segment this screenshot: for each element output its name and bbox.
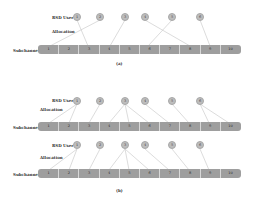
subchannel-cell: 7 — [160, 122, 180, 131]
subchannel-cell: 2 — [59, 122, 79, 131]
user-node: 4 — [141, 141, 149, 149]
user-node: 6 — [196, 13, 204, 21]
subchannel-bar: 1 2 3 4 5 6 7 8 9 10 — [38, 122, 241, 131]
subchannel-cell: 2 — [59, 45, 79, 54]
allocation-lines-a — [0, 0, 253, 70]
panel-b-bottom: RSD User Allocation Subchannel 1 2 3 4 5… — [0, 138, 253, 202]
subchannel-label: Subchannel — [13, 48, 39, 53]
user-node: 4 — [141, 13, 149, 21]
user-node: 6 — [196, 97, 204, 105]
user-node: 3 — [121, 97, 129, 105]
caption-a: (a) — [116, 61, 122, 66]
user-node: 3 — [121, 141, 129, 149]
subchannel-bar: 1 2 3 4 5 6 7 8 9 10 — [38, 45, 241, 54]
user-node: 3 — [121, 13, 129, 21]
subchannel-cell: 9 — [201, 122, 221, 131]
user-node: 2 — [96, 141, 104, 149]
user-node: 1 — [73, 97, 81, 105]
subchannel-cell: 10 — [221, 122, 240, 131]
subchannel-cell: 2 — [59, 169, 79, 178]
rsd-user-label: RSD User — [52, 15, 73, 20]
subchannel-label: Subchannel — [13, 125, 39, 130]
subchannel-cell: 1 — [39, 122, 59, 131]
rsd-user-label: RSD User — [52, 98, 73, 103]
user-node: 1 — [73, 141, 81, 149]
subchannel-cell: 6 — [140, 122, 160, 131]
user-node: 6 — [196, 141, 204, 149]
subchannel-cell: 4 — [100, 45, 120, 54]
user-node: 5 — [168, 97, 176, 105]
subchannel-cell: 5 — [120, 45, 140, 54]
subchannel-bar: 1 2 3 4 5 6 7 8 9 10 — [38, 169, 241, 178]
subchannel-label: Subchannel — [13, 172, 39, 177]
subchannel-cell: 9 — [201, 45, 221, 54]
subchannel-cell: 8 — [180, 169, 200, 178]
user-node: 4 — [141, 97, 149, 105]
allocation-label: Allocation — [40, 155, 63, 160]
subchannel-cell: 9 — [201, 169, 221, 178]
user-node: 5 — [168, 13, 176, 21]
rsd-user-label: RSD User — [52, 143, 73, 148]
subchannel-cell: 8 — [180, 45, 200, 54]
subchannel-cell: 3 — [79, 169, 99, 178]
subchannel-cell: 6 — [140, 45, 160, 54]
user-node: 1 — [73, 13, 81, 21]
subchannel-cell: 3 — [79, 122, 99, 131]
subchannel-cell: 10 — [221, 169, 240, 178]
user-node: 5 — [168, 141, 176, 149]
subchannel-cell: 8 — [180, 122, 200, 131]
user-node: 2 — [96, 97, 104, 105]
allocation-label: Allocation — [52, 29, 75, 34]
panel-a: RSD User Allocation Subchannel 1 2 3 4 5… — [0, 0, 253, 70]
allocation-label: Allocation — [40, 107, 63, 112]
subchannel-cell: 1 — [39, 45, 59, 54]
subchannel-cell: 6 — [140, 169, 160, 178]
subchannel-cell: 5 — [120, 169, 140, 178]
subchannel-cell: 7 — [160, 169, 180, 178]
subchannel-cell: 4 — [100, 169, 120, 178]
subchannel-cell: 1 — [39, 169, 59, 178]
subchannel-cell: 5 — [120, 122, 140, 131]
user-node: 2 — [96, 13, 104, 21]
subchannel-cell: 7 — [160, 45, 180, 54]
panel-b-top: RSD User Allocation Subchannel 1 2 3 4 5… — [0, 78, 253, 138]
subchannel-cell: 3 — [79, 45, 99, 54]
caption-b: (b) — [116, 188, 123, 193]
subchannel-cell: 4 — [100, 122, 120, 131]
subchannel-cell: 10 — [221, 45, 240, 54]
